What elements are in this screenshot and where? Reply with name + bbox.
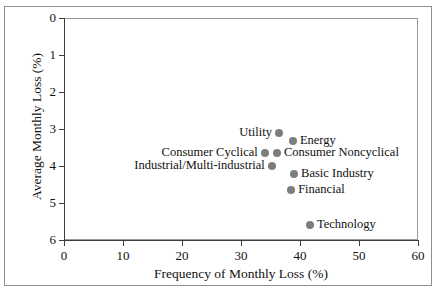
data-point-label: Technology <box>317 218 376 231</box>
x-tick-label: 0 <box>44 249 84 262</box>
x-tick-mark <box>64 241 65 246</box>
y-axis-line <box>64 18 65 241</box>
data-point-label: Industrial/Multi-industrial <box>134 159 265 172</box>
data-point-label: Consumer Noncyclical <box>284 146 399 159</box>
y-tick-mark <box>59 203 64 204</box>
data-point-label: Financial <box>298 183 345 196</box>
y-axis-title: Average Monthly Loss (%) <box>29 7 44 247</box>
data-point-label: Utility <box>239 126 272 139</box>
scatter-chart-figure: 0123456 0102030405060 UtilityEnergyConsu… <box>0 0 437 303</box>
x-tick-mark <box>300 241 301 246</box>
x-tick-label: 40 <box>280 249 320 262</box>
x-tick-mark <box>123 241 124 246</box>
y-tick-mark <box>59 129 64 130</box>
x-tick-mark <box>241 241 242 246</box>
x-tick-mark <box>182 241 183 246</box>
x-tick-label: 60 <box>398 249 437 262</box>
data-point[interactable] <box>261 149 269 157</box>
x-tick-mark <box>359 241 360 246</box>
data-point[interactable] <box>289 137 297 145</box>
x-tick-label: 10 <box>103 249 143 262</box>
x-tick-label: 20 <box>162 249 202 262</box>
y-tick-mark <box>59 92 64 93</box>
x-tick-label: 50 <box>339 249 379 262</box>
y-tick-mark <box>59 166 64 167</box>
y-tick-mark <box>59 18 64 19</box>
x-axis-title: Frequency of Monthly Loss (%) <box>64 266 418 281</box>
y-tick-mark <box>59 55 64 56</box>
data-point[interactable] <box>287 186 295 194</box>
x-tick-mark <box>418 241 419 246</box>
data-point-label: Basic Industry <box>301 167 374 180</box>
x-tick-label: 30 <box>221 249 261 262</box>
